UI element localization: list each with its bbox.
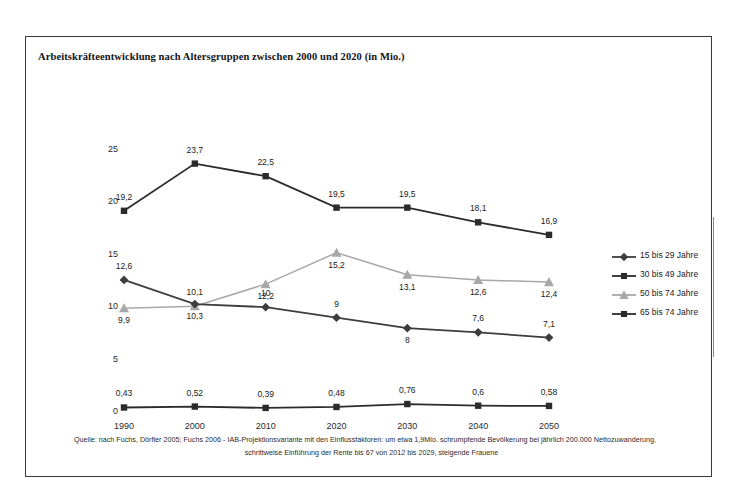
data-point-label: 10,1 [187, 287, 204, 297]
data-point-label: 8 [405, 335, 410, 345]
data-point-label: 19,2 [116, 192, 133, 202]
legend-item-label: 15 bis 29 Jahre [637, 250, 698, 260]
data-point-label: 18,1 [470, 203, 487, 213]
page-title: Arbeitskräfteentwicklung nach Altersgrup… [38, 51, 405, 62]
data-point-label: 10 [261, 288, 270, 298]
data-point-label: 23,7 [187, 145, 204, 155]
data-point-label: 10,3 [187, 311, 204, 321]
x-axis-tick-label: 2010 [256, 421, 276, 431]
y-axis-tick-label: 15 [90, 249, 118, 259]
x-axis-tick-label: 1990 [114, 421, 134, 431]
data-point-label: 12,6 [116, 261, 133, 271]
y-axis-tick-label: 10 [90, 301, 118, 311]
data-point-label: 22,5 [257, 157, 274, 167]
y-axis-tick-label: 0 [90, 406, 118, 416]
source-note-line-2: schrittweise Einführung der Rente bis 67… [46, 446, 697, 459]
series-4 [121, 401, 552, 411]
legend-divider [713, 217, 714, 357]
data-point-label: 0,76 [399, 385, 416, 395]
x-axis-tick-label: 2050 [539, 421, 559, 431]
data-point-label: 7,6 [472, 313, 484, 323]
y-axis-tick-label: 5 [90, 354, 118, 364]
x-axis-tick-label: 2020 [326, 421, 346, 431]
legend-marker-square-icon [611, 306, 637, 318]
data-point-label: 9,9 [118, 315, 130, 325]
data-point-label: 0,48 [328, 388, 345, 398]
figure-frame: Arbeitskräfteentwicklung nach Altersgrup… [25, 36, 712, 477]
data-point-label: 12,6 [470, 287, 487, 297]
legend-item-label: 30 bis 49 Jahre [637, 269, 698, 279]
data-point-label: 0,52 [187, 388, 204, 398]
data-point-label: 9 [334, 299, 339, 309]
source-note: Quelle: nach Fuchs, Dörfler 2005; Fuchs … [46, 433, 697, 459]
data-point-label: 0,39 [257, 389, 274, 399]
data-point-label: 0,43 [116, 388, 133, 398]
data-point-label: 19,5 [399, 189, 416, 199]
data-point-label: 16,9 [541, 216, 558, 226]
legend-item-label: 50 bis 74 Jahre [637, 288, 698, 298]
x-axis-tick-label: 2040 [468, 421, 488, 431]
data-point-label: 0,6 [472, 387, 484, 397]
legend-marker-triangle-icon [611, 287, 637, 299]
data-point-label: 13,1 [399, 282, 416, 292]
data-point-label: 7,1 [543, 319, 555, 329]
chart-plot-area: 051015202519902000201020202030204020509,… [86, 102, 571, 447]
data-point-label: 0,58 [541, 387, 558, 397]
legend-item-label: 65 bis 74 Jahre [637, 307, 698, 317]
legend-marker-diamond-icon [611, 249, 637, 261]
y-axis-tick-label: 20 [90, 196, 118, 206]
legend-marker-square-icon [611, 268, 637, 280]
y-axis-tick-label: 25 [90, 144, 118, 154]
data-point-label: 12,4 [541, 289, 558, 299]
x-axis-tick-label: 2000 [185, 421, 205, 431]
series-1 [120, 276, 554, 342]
series-2 [121, 160, 552, 238]
source-note-line-1: Quelle: nach Fuchs, Dörfler 2005; Fuchs … [46, 433, 697, 446]
data-point-label: 15,2 [328, 260, 345, 270]
x-axis-tick-label: 2030 [397, 421, 417, 431]
data-point-label: 19,5 [328, 189, 345, 199]
